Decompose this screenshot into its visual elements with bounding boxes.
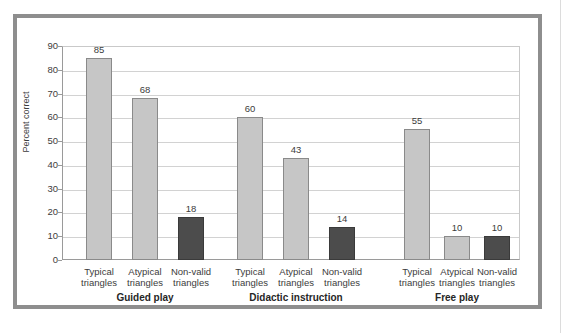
bar-value-label: 85 (79, 44, 119, 55)
bar (237, 117, 263, 260)
y-axis-tick-mark (57, 117, 62, 118)
y-axis-tick-mark (57, 189, 62, 190)
y-axis-tick-label: 40 (32, 159, 58, 170)
y-axis-tick-mark (57, 212, 62, 213)
bar-value-label: 10 (477, 222, 517, 233)
category-label-line2: triangles (310, 277, 374, 288)
gridline (63, 71, 519, 72)
bar-chart: Percent correct 0102030405060708090 8568… (0, 0, 579, 333)
bar-value-label: 43 (276, 144, 316, 155)
y-axis-tick-mark (57, 260, 62, 261)
bar (404, 129, 430, 260)
y-axis-tick-mark (57, 94, 62, 95)
bar (132, 98, 158, 260)
y-axis-tick-label: 0 (32, 254, 58, 265)
y-axis-tick-mark (57, 70, 62, 71)
bar-value-label: 68 (125, 84, 165, 95)
y-axis-tick-label: 10 (32, 230, 58, 241)
bar-value-label: 60 (230, 103, 270, 114)
x-axis-group-label: Didactic instruction (226, 292, 366, 303)
bar (444, 236, 470, 260)
bar (86, 58, 112, 260)
y-axis-tick-label: 60 (32, 111, 58, 122)
x-axis-category-label: Non-validtriangles (159, 266, 223, 288)
y-axis-tick-mark (57, 236, 62, 237)
category-label-line1: Non-valid (465, 266, 529, 277)
bar-value-label: 14 (322, 213, 362, 224)
category-label-line2: triangles (159, 277, 223, 288)
bar-value-label: 10 (437, 222, 477, 233)
category-label-line2: triangles (465, 277, 529, 288)
bar-value-label: 55 (397, 115, 437, 126)
y-axis-tick-label: 90 (32, 40, 58, 51)
y-axis-tick-label: 50 (32, 135, 58, 146)
y-axis-tick-label: 70 (32, 88, 58, 99)
bar (283, 158, 309, 260)
bar (329, 227, 355, 260)
y-axis-tick-labels: 0102030405060708090 (30, 46, 58, 260)
y-axis-tick-mark (57, 46, 62, 47)
x-axis-group-label: Free play (387, 292, 527, 303)
x-axis-group-label: Guided play (75, 292, 215, 303)
category-label-line1: Non-valid (159, 266, 223, 277)
y-axis-tick-label: 80 (32, 64, 58, 75)
y-axis-tick-label: 20 (32, 206, 58, 217)
y-axis-tick-label: 30 (32, 183, 58, 194)
bar (484, 236, 510, 260)
bar (178, 217, 204, 260)
bar-value-label: 18 (171, 203, 211, 214)
x-axis-category-label: Non-validtriangles (310, 266, 374, 288)
y-axis-tick-mark (57, 165, 62, 166)
y-axis-tick-mark (57, 141, 62, 142)
category-label-line1: Non-valid (310, 266, 374, 277)
x-axis-category-label: Non-validtriangles (465, 266, 529, 288)
